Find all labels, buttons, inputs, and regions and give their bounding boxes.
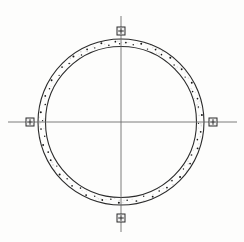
rebar-dot — [110, 198, 112, 200]
rebar-dot — [68, 63, 70, 65]
speckle-dot — [158, 53, 159, 54]
speckle-dot — [196, 100, 197, 101]
rebar-dot — [50, 159, 52, 161]
speckle-dot — [59, 69, 60, 70]
rebar-dot — [85, 194, 87, 196]
speckle-dot — [197, 95, 198, 96]
speckle-dot — [131, 199, 132, 200]
rebar-dot — [119, 43, 121, 45]
speckle-dot — [80, 51, 82, 53]
speckle-dot — [96, 197, 97, 198]
speckle-dot — [78, 56, 79, 57]
speckle-dot — [50, 86, 51, 87]
rebar-dot — [161, 54, 163, 56]
speckle-dot — [198, 143, 199, 144]
speckle-dot — [105, 199, 106, 200]
speckle-dot — [51, 81, 52, 82]
rebar-dot — [72, 56, 74, 58]
speckle-dot — [117, 41, 118, 42]
speckle-dot — [193, 150, 194, 151]
speckle-dot — [44, 98, 45, 99]
rebar-dot — [108, 45, 110, 47]
rebar-dot — [47, 151, 49, 153]
speckle-dot — [123, 44, 124, 45]
speckle-dot — [78, 54, 79, 55]
speckle-dot — [184, 165, 186, 167]
rebar-dot — [132, 44, 134, 46]
speckle-dot — [161, 192, 162, 193]
rebar-dot — [101, 199, 103, 201]
rebar-dot — [42, 144, 44, 146]
technical-drawing-canvas: Annular ring plan with centerlines and s… — [0, 0, 244, 242]
rebar-dot — [191, 82, 193, 84]
speckle-dot — [201, 125, 203, 127]
speckle-dot — [200, 101, 201, 102]
speckle-dot — [123, 200, 124, 201]
speckle-dot — [52, 162, 53, 163]
speckle-dot — [162, 51, 164, 53]
rebar-dot — [80, 187, 82, 189]
rebar-dot — [143, 196, 144, 197]
rebar-dot — [44, 135, 46, 137]
speckle-dot — [190, 154, 191, 155]
speckle-dot — [198, 101, 199, 102]
speckle-dot — [93, 195, 94, 196]
speckle-dot — [195, 92, 196, 93]
speckle-dot — [43, 128, 44, 129]
rebar-dot — [100, 42, 102, 44]
speckle-dot — [187, 163, 189, 165]
speckle-dot — [137, 43, 138, 44]
speckle-dot — [159, 188, 160, 189]
speckle-dot — [104, 44, 105, 45]
speckle-dot — [39, 126, 40, 127]
rebar-dot — [192, 91, 194, 93]
speckle-dot — [118, 41, 119, 42]
rebar-dot — [49, 88, 51, 90]
rebar-dot — [61, 66, 63, 68]
speckle-dot — [129, 42, 130, 43]
rebar-dot — [94, 195, 95, 196]
rebar-dot — [198, 123, 199, 124]
rebar-dot — [125, 42, 127, 44]
speckle-dot — [86, 191, 87, 192]
speckle-dot — [193, 96, 194, 97]
rebar-dot — [51, 79, 53, 81]
speckle-dot — [198, 115, 200, 117]
rebar-dot — [159, 190, 161, 192]
marker-south[interactable] — [117, 214, 125, 222]
speckle-dot — [93, 46, 94, 47]
rebar-dot — [71, 185, 73, 187]
rebar-dot — [166, 187, 168, 189]
speckle-dot — [180, 67, 181, 68]
rebar-dot — [183, 168, 184, 169]
speckle-dot — [172, 184, 174, 186]
speckle-dot — [70, 63, 71, 64]
speckle-dot — [118, 200, 120, 202]
rebar-dot — [147, 48, 148, 49]
rebar-dot — [40, 128, 42, 130]
annular-ring-drawing: Annular ring plan with centerlines and s… — [0, 0, 244, 242]
speckle-dot — [198, 133, 199, 134]
speckle-dot — [43, 118, 45, 120]
rebar-dot — [58, 75, 59, 76]
speckle-dot — [156, 52, 157, 53]
rebar-dot — [169, 57, 171, 59]
rebar-dot — [118, 202, 120, 204]
speckle-dot — [114, 198, 115, 199]
rebar-dot — [155, 49, 157, 51]
speckle-dot — [84, 193, 85, 194]
speckle-dot — [194, 87, 195, 88]
marker-east[interactable] — [209, 118, 217, 126]
speckle-dot — [39, 123, 40, 124]
rebar-dot — [94, 47, 95, 48]
rebar-dot — [173, 64, 175, 66]
rebar-dot — [140, 43, 142, 45]
marker-west[interactable] — [26, 118, 34, 126]
rebar-dot — [42, 120, 43, 121]
speckle-dot — [86, 51, 87, 52]
marker-north[interactable] — [117, 27, 125, 35]
rebar-dot — [115, 41, 117, 43]
speckle-dot — [200, 136, 202, 138]
rebar-dot — [66, 178, 68, 180]
speckle-dot — [152, 52, 153, 53]
